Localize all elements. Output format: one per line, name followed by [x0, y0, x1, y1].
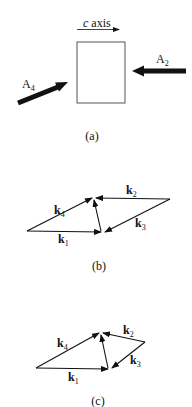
- c-axis-label: c axis: [83, 16, 111, 30]
- panel-a: c axis A4 A2 (a): [18, 16, 186, 143]
- caption-a: (a): [85, 129, 98, 143]
- caption-b: (b): [92, 259, 106, 273]
- crystal-box: [77, 42, 125, 103]
- k3-label: k3: [135, 216, 146, 232]
- panel-b: k4 k2 k3 k1 (b): [27, 183, 170, 273]
- sum-vector: [94, 200, 101, 231]
- a4-label: A4: [22, 77, 35, 93]
- panel-c: k4 k2 k3 k1 (c): [36, 323, 145, 407]
- figure: c axis A4 A2 (a) k4 k2 k3 k1 (b): [0, 0, 192, 407]
- a2-arrow-icon: [132, 66, 186, 77]
- k4-label: k4: [54, 203, 65, 219]
- k2-label: k2: [123, 323, 134, 339]
- sum-vector: [101, 335, 108, 368]
- k4-label: k4: [57, 336, 68, 352]
- caption-c: (c): [91, 394, 104, 407]
- a2-label: A2: [156, 52, 169, 68]
- k1-label: k1: [68, 370, 79, 386]
- k2-label: k2: [126, 183, 137, 199]
- k1-label: k1: [58, 232, 69, 248]
- k1-vector: [36, 368, 108, 369]
- k3-label: k3: [130, 353, 141, 369]
